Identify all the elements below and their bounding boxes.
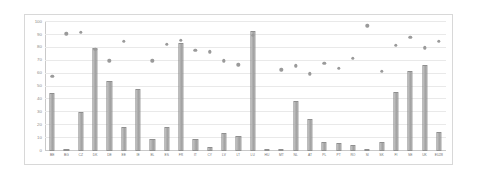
bar-IT xyxy=(193,139,198,151)
bar-group: NL xyxy=(288,22,302,151)
x-tick-label: LU xyxy=(251,154,255,157)
x-tick-label: BE xyxy=(50,154,54,157)
x-tick-label: EU28 xyxy=(435,154,443,157)
x-tick-label: AT xyxy=(308,154,312,157)
dot-LV xyxy=(222,59,225,62)
bar-group: AT xyxy=(303,22,317,151)
dot-LT xyxy=(237,63,240,66)
x-tick-label: PL xyxy=(322,154,326,157)
dot-IT xyxy=(194,49,197,52)
bar-group: LU xyxy=(246,22,260,151)
bar-group: IT xyxy=(188,22,202,151)
x-tick-label: NL xyxy=(294,154,298,157)
bar-NL xyxy=(293,101,298,151)
dot-CY xyxy=(208,50,211,53)
bar-CY xyxy=(207,147,212,151)
dot-DE xyxy=(108,59,111,62)
chart-container: 0102030405060708090100 BEBGCZDKDEEEIEELE… xyxy=(24,14,453,165)
bar-group: EE xyxy=(117,22,131,151)
x-tick-label: UK xyxy=(422,154,427,157)
dot-PT xyxy=(337,67,340,70)
bar-EL xyxy=(150,139,155,151)
x-tick-label: IT xyxy=(194,154,197,157)
bar-group: LV xyxy=(217,22,231,151)
x-tick-label: PT xyxy=(336,154,340,157)
bar-MT xyxy=(279,149,284,151)
bar-group: LT xyxy=(231,22,245,151)
dot-UK xyxy=(423,46,426,49)
bar-BG xyxy=(64,149,69,151)
y-tick-label: 90 xyxy=(37,33,42,37)
dot-FI xyxy=(394,44,397,47)
x-tick-label: BG xyxy=(64,154,69,157)
x-tick-label: IE xyxy=(137,154,140,157)
data-series: BEBGCZDKDEEEIEELESFRITCYLVLTLUHUMTNLATPL… xyxy=(45,22,446,151)
bar-LT xyxy=(236,136,241,151)
bar-SE xyxy=(408,71,413,151)
x-tick-label: HU xyxy=(265,154,270,157)
bar-group: CZ xyxy=(74,22,88,151)
bar-UK xyxy=(422,65,427,151)
x-tick-label: CZ xyxy=(79,154,83,157)
bar-group: DK xyxy=(88,22,102,151)
bar-AT xyxy=(307,119,312,151)
bar-PT xyxy=(336,143,341,151)
y-tick-label: 0 xyxy=(40,149,42,153)
y-tick-label: 80 xyxy=(37,46,42,50)
bar-EE xyxy=(121,127,126,152)
bar-group: SK xyxy=(374,22,388,151)
y-tick-label: 50 xyxy=(37,84,42,88)
bar-group: FI xyxy=(389,22,403,151)
bar-group: BE xyxy=(45,22,59,151)
y-tick-label: 60 xyxy=(37,71,42,75)
x-tick-label: DK xyxy=(93,154,98,157)
x-tick-label: CY xyxy=(207,154,212,157)
bar-group: BG xyxy=(59,22,73,151)
dot-SI xyxy=(366,24,369,27)
y-tick-label: 70 xyxy=(37,59,42,63)
bar-FI xyxy=(393,92,398,151)
dot-FR xyxy=(179,38,182,41)
x-tick-label: EE xyxy=(122,154,126,157)
bar-FR xyxy=(178,43,183,151)
bar-PL xyxy=(322,142,327,151)
x-tick-label: ES xyxy=(165,154,169,157)
dot-RO xyxy=(351,56,354,59)
x-tick-label: LT xyxy=(237,154,241,157)
bar-group: EL xyxy=(145,22,159,151)
x-tick-label: DE xyxy=(107,154,112,157)
bar-group: MT xyxy=(274,22,288,151)
dot-ES xyxy=(165,42,168,45)
bar-LU xyxy=(250,31,255,151)
dot-BE xyxy=(50,74,53,77)
dot-MT xyxy=(280,68,283,71)
x-tick-label: FI xyxy=(394,154,397,157)
bar-group: CY xyxy=(203,22,217,151)
x-tick-label: LV xyxy=(222,154,226,157)
plot-area: 0102030405060708090100 BEBGCZDKDEEEIEELE… xyxy=(45,22,446,151)
bar-BE xyxy=(50,93,55,151)
y-tick-label: 100 xyxy=(35,20,42,24)
y-tick-label: 10 xyxy=(37,136,42,140)
bar-group: FR xyxy=(174,22,188,151)
bar-LV xyxy=(221,133,226,151)
x-tick-label: RO xyxy=(350,154,355,157)
dot-SK xyxy=(380,69,383,72)
x-tick-label: SK xyxy=(379,154,383,157)
dot-EE xyxy=(122,40,125,43)
dot-NL xyxy=(294,64,297,67)
y-tick-label: 30 xyxy=(37,110,42,114)
bar-group: SE xyxy=(403,22,417,151)
x-tick-label: SE xyxy=(408,154,412,157)
bar-group: PT xyxy=(331,22,345,151)
dot-BG xyxy=(65,32,68,35)
bar-CZ xyxy=(78,112,83,151)
bar-group: ES xyxy=(160,22,174,151)
bar-DK xyxy=(93,48,98,151)
bar-RO xyxy=(350,145,355,151)
bar-DE xyxy=(107,81,112,151)
dot-CZ xyxy=(79,31,82,34)
bar-HU xyxy=(264,149,269,151)
dot-EL xyxy=(151,59,154,62)
bar-ES xyxy=(164,127,169,152)
